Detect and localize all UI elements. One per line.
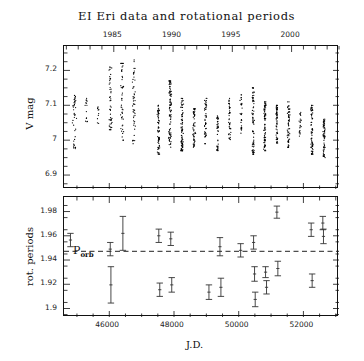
errorbar-point [107, 242, 113, 255]
errorbar-point [250, 236, 256, 249]
errorbar-point [217, 238, 223, 256]
errorbar-point [156, 229, 162, 242]
jd-axis-label: J.D. [186, 339, 203, 350]
year-tick-2000: 2000 [281, 30, 300, 39]
year-tick-1985: 1985 [103, 30, 122, 39]
errorbar-point [275, 261, 281, 276]
rotational-periods-svg [64, 197, 339, 317]
vmag-tick-6.9: 6.9 [0, 169, 57, 178]
figure-canvas: EI Eri data and rotational periods 19851… [0, 0, 364, 361]
figure-title: EI Eri data and rotational periods [78, 9, 295, 23]
period-errorbars [67, 206, 326, 307]
porb-subscript: orb [80, 250, 93, 259]
errorbar-point [320, 229, 326, 244]
errorbar-point [274, 206, 280, 218]
year-tick-1995: 1995 [221, 30, 240, 39]
porb-label: Porb [73, 244, 94, 259]
errorbar-point [309, 274, 315, 287]
errorbar-point [168, 232, 174, 245]
year-tick-1990: 1990 [162, 30, 181, 39]
errorbar-point [308, 223, 314, 236]
jd-tick-46000: 46000 [95, 320, 119, 329]
jd-tick-52000: 52000 [289, 320, 313, 329]
errorbar-point [262, 267, 268, 278]
errorbar-point [169, 278, 175, 293]
errorbar-point [320, 216, 326, 229]
errorbar-point [108, 267, 114, 303]
period-axis-label: rot. periods [24, 214, 35, 300]
errorbar-point [237, 244, 243, 257]
period-tick-1.9: 1.9 [0, 303, 57, 312]
errorbar-point [252, 292, 258, 307]
errorbar-point [263, 281, 269, 294]
errorbar-point [157, 283, 163, 296]
vmag-data-points [72, 59, 326, 158]
vmag-axis-label: V mag [24, 84, 35, 144]
jd-tick-48000: 48000 [160, 320, 184, 329]
rotational-periods-panel [63, 196, 338, 316]
jd-tick-50000: 50000 [225, 320, 249, 329]
errorbar-point [120, 216, 126, 250]
vmag-tick-7.2: 7.2 [0, 64, 57, 73]
vmag-plot-svg [64, 46, 339, 189]
vmag-plot-panel [63, 45, 338, 188]
errorbar-point [206, 285, 212, 300]
errorbar-point [218, 278, 224, 296]
errorbar-point [251, 267, 257, 282]
